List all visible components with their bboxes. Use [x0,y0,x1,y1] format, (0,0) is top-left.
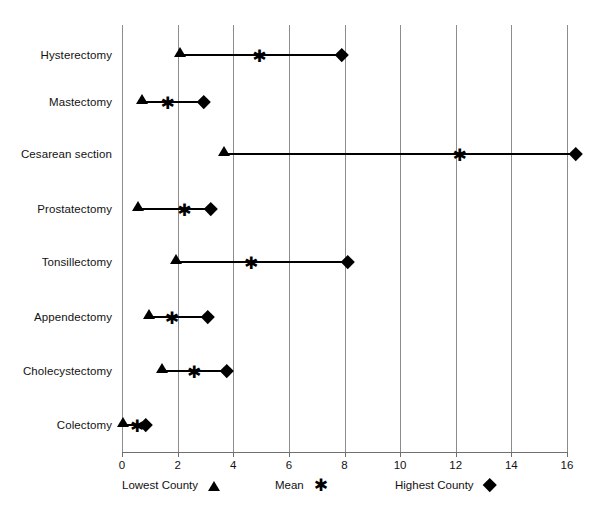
x-tick-16 [567,452,568,457]
triangle-icon [156,363,168,373]
triangle-icon [218,146,230,156]
diamond-icon [220,364,233,377]
category-label-colectomy: Colectomy [2,419,112,431]
x-tick-label: 6 [286,459,292,471]
gridline-x-8 [345,25,346,452]
gridline-x-12 [456,25,457,452]
marker-triangle-lowest-county [143,102,149,104]
marker-triangle-lowest-county [180,55,186,57]
category-axis-labels: HysterectomyMastectomyCesarean sectionPr… [0,0,112,515]
marker-triangle-lowest-county [162,371,168,373]
marker-diamond-highest-county [208,317,213,322]
legend-label: Highest County [395,479,474,491]
legend-label: Mean [275,479,304,491]
diamond-icon [335,48,348,61]
category-label-hysterectomy: Hysterectomy [2,49,112,61]
triangle-icon [143,309,155,319]
category-label-tonsillectomy: Tonsillectomy [2,256,112,268]
x-tick-4 [233,452,234,457]
marker-asterisk-mean: ✱ [250,262,256,263]
category-label-cholecystectomy: Cholecystectomy [2,365,112,377]
legend-label: Lowest County [122,479,198,491]
marker-diamond-highest-county [146,425,151,430]
legend-item-highest-county: Highest County [395,478,497,491]
x-tick-14 [511,452,512,457]
marker-asterisk-mean: ✱ [258,55,264,56]
marker-triangle-lowest-county [150,317,156,319]
marker-diamond-highest-county [347,262,352,267]
diamond-icon [341,255,354,268]
legend-item-lowest-county: Lowest County [122,478,221,491]
range-line [150,316,208,318]
triangle-icon [132,201,144,211]
x-tick-12 [456,452,457,457]
x-tick-6 [289,452,290,457]
x-tick-label: 12 [449,459,462,471]
diamond-icon [483,478,497,491]
diamond-icon [204,202,217,215]
marker-asterisk-mean: ✱ [193,371,199,372]
marker-diamond-highest-county [342,55,347,60]
plot-area: ✱✱✱✱✱✱✱✱ [122,25,567,452]
gridline-x-10 [400,25,401,452]
marker-diamond-highest-county [575,154,580,159]
x-tick-label: 4 [230,459,236,471]
gridline-x-14 [511,25,512,452]
caption-strip [0,503,598,515]
x-tick-label: 14 [505,459,518,471]
range-line [139,208,211,210]
marker-triangle-lowest-county [139,209,145,211]
marker-asterisk-mean: ✱ [183,209,189,210]
marker-diamond-highest-county [211,209,216,214]
diamond-icon [202,310,215,323]
triangle-icon [207,478,221,491]
gridline-x-16 [567,25,568,452]
marker-triangle-lowest-county [123,425,129,427]
marker-triangle-lowest-county [176,262,182,264]
gridline-x-0 [122,25,123,452]
marker-triangle-lowest-county [225,154,231,156]
x-tick-label: 0 [119,459,125,471]
x-tick-10 [400,452,401,457]
category-label-prostatectomy: Prostatectomy [2,203,112,215]
x-tick-0 [122,452,123,457]
category-label-mastectomy: Mastectomy [2,96,112,108]
asterisk-icon: ✱ [313,478,327,491]
gridline-x-6 [289,25,290,452]
marker-diamond-highest-county [226,371,231,376]
range-line [176,261,347,263]
chart-figure: HysterectomyMastectomyCesarean sectionPr… [0,0,598,515]
triangle-icon [174,47,186,57]
gridline-x-4 [233,25,234,452]
triangle-icon [136,94,148,104]
x-tick-label: 2 [174,459,180,471]
legend-item-mean: Mean✱ [275,478,327,491]
category-label-appendectomy: Appendectomy [2,311,112,323]
range-line [225,153,575,155]
marker-asterisk-mean: ✱ [167,102,173,103]
chart-legend: Lowest CountyMean✱Highest County [0,478,598,500]
triangle-icon [170,254,182,264]
category-label-cesarean-section: Cesarean section [2,148,112,160]
marker-asterisk-mean: ✱ [459,154,465,155]
diamond-icon [197,95,210,108]
triangle-icon [117,417,129,427]
marker-asterisk-mean: ✱ [171,317,177,318]
x-tick-label: 16 [561,459,574,471]
gridline-x-2 [178,25,179,452]
diamond-icon [569,147,582,160]
marker-diamond-highest-county [204,102,209,107]
x-tick-label: 10 [394,459,407,471]
x-tick-2 [178,452,179,457]
x-tick-8 [345,452,346,457]
x-tick-label: 8 [341,459,347,471]
